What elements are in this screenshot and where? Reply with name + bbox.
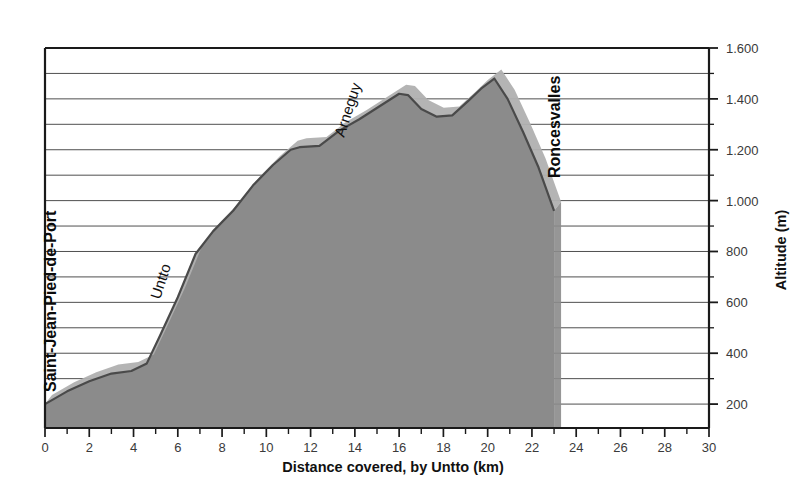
x-tick-label-24: 24 (569, 440, 583, 455)
chart-canvas: 024681012141618202224262830 200400600800… (0, 0, 812, 485)
y-tick-label-1200: 1.200 (726, 143, 759, 158)
ridge-end-face (554, 202, 561, 428)
y-axis-title: Altitude (m) (773, 210, 789, 291)
x-tick-label-8: 8 (218, 440, 225, 455)
y-tick-label-1600: 1.600 (726, 41, 759, 56)
x-tick-label-14: 14 (348, 440, 362, 455)
y-tick-label-1400: 1.400 (726, 92, 759, 107)
x-axis-title: Distance covered, by Untto (km) (282, 459, 504, 475)
waypoint-label-roncesvalles: Roncesvalles (546, 76, 563, 178)
x-tick-label-4: 4 (130, 440, 137, 455)
x-tick-label-10: 10 (259, 440, 273, 455)
x-tick-label-2: 2 (86, 440, 93, 455)
x-tick-label-20: 20 (480, 440, 494, 455)
waypoint-label-saint-jean-pied-de-port: Saint-Jean-Pied-de-Port (42, 210, 59, 392)
x-tick-label-0: 0 (41, 440, 48, 455)
x-tick-label-26: 26 (613, 440, 627, 455)
x-tick-label-18: 18 (436, 440, 450, 455)
elevation-profile-chart: 024681012141618202224262830 200400600800… (0, 0, 812, 485)
y-tick-label-800: 800 (726, 244, 748, 259)
x-tick-label-28: 28 (657, 440, 671, 455)
y-tick-label-600: 600 (726, 295, 748, 310)
y-tick-label-400: 400 (726, 346, 748, 361)
y-tick-label-200: 200 (726, 397, 748, 412)
x-tick-label-22: 22 (525, 440, 539, 455)
x-tick-label-30: 30 (702, 440, 716, 455)
x-tick-label-6: 6 (174, 440, 181, 455)
y-tick-label-1000: 1.000 (726, 194, 759, 209)
x-tick-label-12: 12 (303, 440, 317, 455)
x-tick-label-16: 16 (392, 440, 406, 455)
